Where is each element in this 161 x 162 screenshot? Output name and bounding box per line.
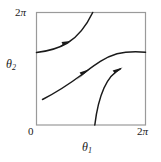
- plot-canvas: [0, 0, 161, 162]
- x-axis-title: θ1: [82, 141, 92, 155]
- y-axis-title: θ2: [6, 58, 16, 72]
- y-axis-max-label: 2π: [15, 7, 26, 18]
- y-axis-max-symbol: π: [21, 6, 27, 18]
- x-axis-min-label: 0: [28, 126, 34, 137]
- x-axis-title-subscript: 1: [88, 146, 92, 155]
- y-axis-title-subscript: 2: [12, 63, 16, 72]
- plot-frame: [37, 13, 146, 126]
- phase-portrait-figure: 2π 0 2π θ2 θ1: [0, 0, 161, 162]
- x-axis-max-label: 2π: [137, 126, 148, 137]
- x-axis-max-symbol: π: [143, 125, 149, 137]
